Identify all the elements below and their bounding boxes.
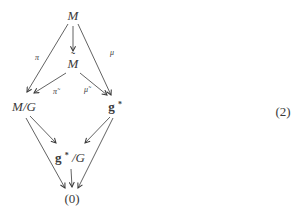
edge-label-pi: π <box>35 53 40 62</box>
node-mtilde: M <box>67 56 80 71</box>
g-star-mod-g-base: g <box>55 150 62 165</box>
node-g-star: g * <box>108 99 122 114</box>
edge-label-mu: μ <box>109 48 114 57</box>
node-zero: (0) <box>64 191 79 206</box>
commutative-diagram: M ˜ M M/G g * g * /G (0) π μ π̃ μ̃ (2) <box>0 0 304 215</box>
edge-label-pi-tilde: π̃ <box>53 87 61 96</box>
arrow-m-to-m-mod-g <box>27 24 68 92</box>
arrow-g-star-mod-g-to-zero <box>71 169 72 187</box>
g-star-mod-g-rest: /G <box>71 150 86 165</box>
node-g-star-mod-g: g * /G <box>55 146 86 165</box>
node-m-mod-g: M/G <box>11 99 36 114</box>
arrow-mtilde-to-m-mod-g <box>34 73 66 93</box>
arrow-g-star-to-g-star-mod-g <box>85 117 110 143</box>
equation-number: (2) <box>275 104 290 119</box>
g-star-base: g <box>108 99 115 114</box>
diagram-nodes: M ˜ M M/G g * g * /G (0) <box>11 8 122 206</box>
node-m: M <box>67 8 80 23</box>
g-star-mod-g-superscript: * <box>65 151 69 160</box>
g-star-superscript: * <box>118 100 122 109</box>
diagram-arrows <box>26 24 113 188</box>
edge-label-mu-tilde: μ̃ <box>83 85 92 94</box>
arrow-m-mod-g-to-g-star-mod-g <box>30 116 56 143</box>
scanned-figure-page: M ˜ M M/G g * g * /G (0) π μ π̃ μ̃ (2) <box>0 0 304 215</box>
